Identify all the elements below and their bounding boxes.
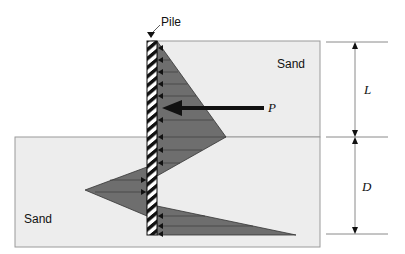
sand-lower-label: Sand	[24, 212, 52, 226]
pile-diagram: Pile Sand Sand P L D	[0, 0, 405, 254]
load-label: P	[267, 100, 276, 115]
sand-upper-label: Sand	[277, 57, 305, 71]
dimension-d-label: D	[361, 179, 372, 194]
dimension-l-label: L	[363, 82, 371, 97]
sheet-pile	[147, 41, 157, 235]
pile-label-group: Pile	[147, 15, 181, 38]
pile-label: Pile	[161, 15, 181, 29]
pile-pointer-icon	[147, 32, 155, 38]
dimension-lines	[326, 42, 388, 234]
